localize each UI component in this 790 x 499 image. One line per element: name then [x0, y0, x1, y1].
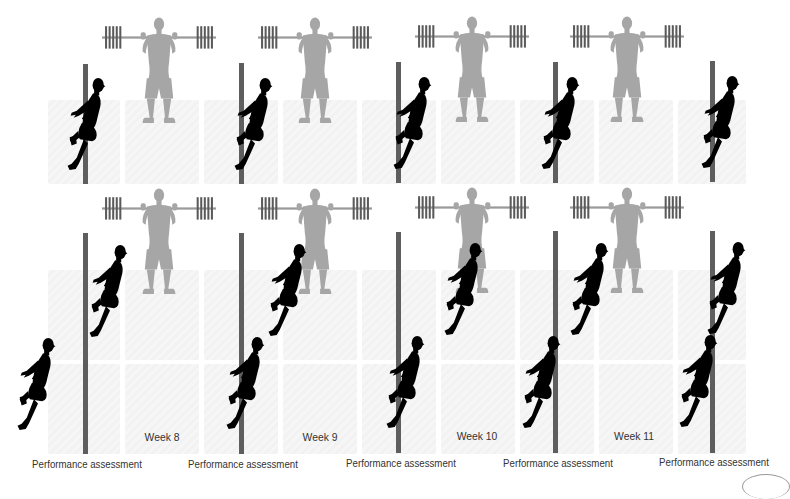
- sprinter-silhouette-icon: [541, 77, 583, 171]
- timing-gate-pole-icon: [83, 233, 88, 454]
- sprinter-silhouette-icon: [679, 335, 721, 429]
- performance-assessment-label: Performance assessment: [644, 456, 785, 468]
- sprinter-silhouette-icon: [268, 244, 310, 338]
- sprinter-silhouette-icon: [226, 337, 268, 431]
- barbell-squat-lifter-icon: [570, 16, 684, 124]
- sprinter-silhouette-icon: [522, 336, 564, 430]
- sprinter-silhouette-icon: [393, 77, 435, 171]
- sprinter-silhouette-icon: [386, 336, 428, 430]
- sprinter-silhouette-icon: [444, 243, 486, 337]
- barbell-squat-lifter-icon: [102, 17, 216, 125]
- sprinter-silhouette-icon: [67, 78, 109, 172]
- sprinter-silhouette-icon: [17, 338, 59, 432]
- sprinter-silhouette-icon: [234, 78, 276, 172]
- week-label: Week 10: [441, 430, 513, 442]
- performance-assessment-label: Performance assessment: [173, 458, 314, 470]
- decorative-arc: [742, 474, 790, 499]
- week-label: Week 11: [598, 430, 670, 442]
- sprinter-silhouette-icon: [570, 243, 612, 337]
- sprinter-silhouette-icon: [701, 76, 743, 170]
- week-label: Week 8: [126, 431, 198, 443]
- performance-assessment-label: Performance assessment: [331, 457, 472, 469]
- sprinter-silhouette-icon: [89, 245, 131, 339]
- performance-assessment-label: Performance assessment: [488, 457, 629, 469]
- performance-assessment-label: Performance assessment: [17, 458, 158, 470]
- week-label: Week 9: [284, 431, 356, 443]
- sprinter-silhouette-icon: [707, 242, 749, 336]
